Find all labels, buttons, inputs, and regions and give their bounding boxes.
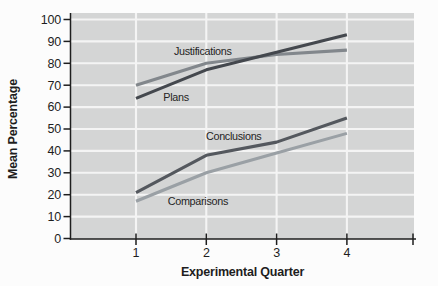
y-axis-tick-label: 100 <box>41 13 62 27</box>
y-axis-tick-label: 80 <box>47 57 61 71</box>
y-axis-tick-label: 70 <box>47 79 61 93</box>
x-axis-tick-label: 1 <box>133 246 140 260</box>
x-axis-title: Experimental Quarter <box>181 265 304 279</box>
screenshot-root: { "chart_data": { "type": "line", "title… <box>0 0 438 286</box>
y-axis-tick-label: 10 <box>47 210 61 224</box>
series-label-conclusions: Conclusions <box>206 130 262 142</box>
series-label-justifications: Justifications <box>174 45 233 57</box>
y-axis-tick-label: 20 <box>47 188 61 202</box>
y-axis-tick-label: 30 <box>47 166 61 180</box>
x-axis-tick-label: 3 <box>273 246 280 260</box>
line-chart-figure: 01020304050607080901001234Mean Percentag… <box>0 0 438 286</box>
x-axis-tick-label: 2 <box>203 246 210 260</box>
series-label-comparisons: Comparisons <box>168 195 229 207</box>
series-label-plans: Plans <box>163 91 189 103</box>
y-axis-tick-label: 0 <box>54 232 61 246</box>
x-axis-tick-label: 4 <box>344 246 351 260</box>
y-axis-tick-label: 90 <box>47 35 61 49</box>
y-axis-title: Mean Percentage <box>6 79 20 179</box>
plot-area-background <box>71 13 414 239</box>
line-chart: 01020304050607080901001234Mean Percentag… <box>0 0 438 286</box>
y-axis-tick-label: 50 <box>47 122 61 136</box>
y-axis-tick-label: 60 <box>47 100 61 114</box>
y-axis-tick-label: 40 <box>47 144 61 158</box>
